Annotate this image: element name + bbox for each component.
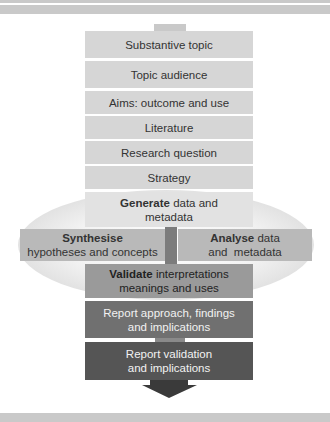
- bottom-band: [0, 413, 330, 422]
- down-arrow-icon: [0, 0, 330, 422]
